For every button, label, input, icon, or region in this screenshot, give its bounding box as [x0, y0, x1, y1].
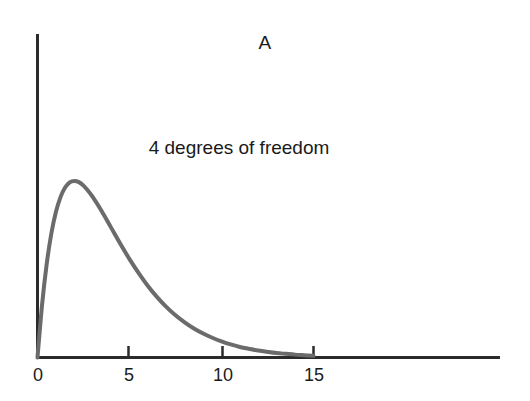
degrees-of-freedom-annotation: 4 degrees of freedom — [0, 138, 478, 157]
chart-plot-area — [0, 0, 530, 401]
x-tick-label-5: 5 — [124, 366, 134, 384]
x-tick-label-15: 15 — [304, 366, 324, 384]
x-tick-label-10: 10 — [213, 366, 233, 384]
chi-square-curve — [38, 181, 314, 358]
panel-label: A — [0, 33, 530, 52]
x-tick-label-0: 0 — [33, 366, 43, 384]
chart-figure: A 4 degrees of freedom 0 5 10 15 — [0, 0, 530, 401]
